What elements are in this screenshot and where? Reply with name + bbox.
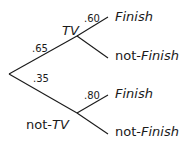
- leaf-tv-not-finish-label: Finish: [141, 48, 179, 63]
- branch-root-to-tv: [9, 36, 77, 74]
- prob-not-tv: .35: [33, 74, 49, 84]
- leaf-not-tv-finish-label: Finish: [115, 86, 153, 101]
- node-tv: TV: [62, 24, 79, 37]
- leaf-tv-not-finish-prefix: not-: [115, 48, 141, 63]
- leaf-tv-finish-label: Finish: [115, 9, 153, 24]
- leaf-not-tv-finish: Finish: [115, 87, 153, 100]
- prob-tv-finish: .60: [84, 14, 100, 24]
- node-not-tv-prefix: not-: [26, 117, 52, 132]
- node-tv-label: TV: [62, 23, 79, 38]
- branch-tv-to-not-finish: [77, 36, 108, 58]
- node-not-tv: not-TV: [26, 118, 69, 131]
- leaf-tv-not-finish: not-Finish: [115, 49, 179, 62]
- leaf-not-tv-not-finish-prefix: not-: [115, 124, 141, 139]
- prob-tv: .65: [32, 44, 48, 54]
- leaf-not-tv-not-finish: not-Finish: [115, 125, 179, 138]
- leaf-not-tv-not-finish-label: Finish: [141, 124, 179, 139]
- node-not-tv-label: TV: [52, 117, 69, 132]
- leaf-tv-finish: Finish: [115, 10, 153, 23]
- branch-not-tv-to-not-finish: [77, 113, 108, 134]
- prob-not-tv-finish: .80: [84, 91, 100, 101]
